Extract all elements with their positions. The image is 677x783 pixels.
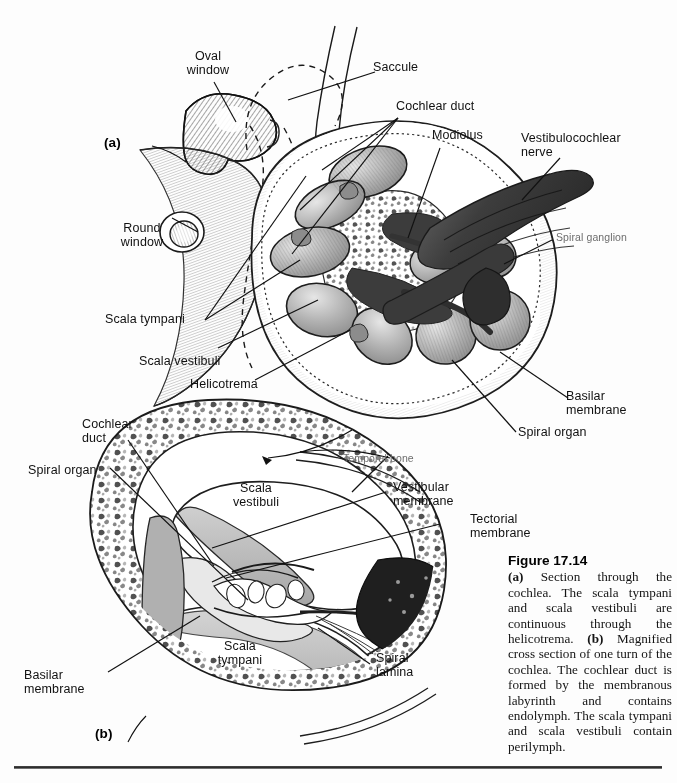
- spiral-organ-shape: [212, 570, 332, 625]
- label-tectorial-membrane: Tectorial membrane: [470, 513, 531, 540]
- label-modiolus: Modiolus: [432, 129, 483, 143]
- label-scala-vestibuli-b: Scala vestibuli: [216, 482, 296, 509]
- panel-a-marker: (a): [104, 136, 121, 150]
- caption-a-marker: (a): [508, 569, 523, 584]
- label-spiral-organ-b: Spiral organ: [28, 464, 97, 478]
- caption-b-text: Magnified cross section of one turn of t…: [508, 631, 672, 754]
- label-scala-tympani: Scala tympani: [105, 313, 185, 327]
- label-saccule: Saccule: [373, 61, 418, 75]
- figure-number: Figure 17.14: [508, 553, 672, 568]
- label-oval-window: Oval window: [163, 50, 253, 77]
- label-cochlear-duct: Cochlear duct: [396, 100, 474, 114]
- figure-caption: Figure 17.14(a) Section through the coch…: [508, 553, 672, 754]
- label-scala-tympani-b: Scala tympani: [200, 640, 280, 667]
- cochlear-turn-lumens: [266, 137, 530, 376]
- spiral-ganglion-shape: [463, 268, 510, 325]
- label-scala-vestibuli: Scala vestibuli: [139, 355, 220, 369]
- label-basilar-membrane-b: Basilar membrane: [24, 669, 85, 696]
- label-vestibulocochlear-nerve: Vestibulocochlear nerve: [521, 132, 621, 159]
- label-basilar-membrane-a: Basilar membrane: [566, 390, 627, 417]
- saccule-contour: [315, 26, 357, 202]
- figure-page: (a) (b) Oval window Saccule Cochlear duc…: [0, 0, 677, 783]
- label-temporal-bone: Temporal bone: [343, 452, 414, 464]
- page-bottom-rule: [14, 766, 662, 769]
- vestibulocochlear-nerve-shape: [383, 170, 593, 324]
- spiral-lamina-and-nerve-channels: [347, 213, 498, 332]
- label-spiral-organ-a: Spiral organ: [518, 426, 587, 440]
- label-vestibular-membrane: Vestibular membrane: [393, 481, 454, 508]
- label-cochlear-duct-b: Cochlear duct: [82, 418, 133, 445]
- membranous-labyrinth-dashed: [242, 65, 342, 368]
- label-round-window: Round window: [106, 222, 178, 249]
- label-helicotrema: Helicotrema: [190, 378, 258, 392]
- caption-b-marker: (b): [587, 631, 603, 646]
- oval-window-shape: [183, 94, 279, 175]
- label-spiral-ganglion: Spiral ganglion: [556, 231, 627, 243]
- label-spiral-lamina: Spiral lamina: [376, 652, 413, 679]
- cochlea-spiral-section: [240, 110, 557, 420]
- panel-b-marker: (b): [95, 727, 113, 741]
- leader-lines: [108, 72, 568, 742]
